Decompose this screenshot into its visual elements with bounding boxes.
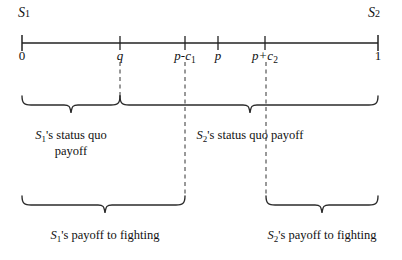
lower-brace-group	[22, 196, 378, 213]
tick-label-p-plus-c2-text: p+c	[252, 48, 273, 63]
tick-label-p-plus-c2: p+c2	[252, 49, 278, 65]
tick-label-q: q	[117, 49, 124, 64]
brace-s2-status-quo	[120, 96, 378, 113]
brace-label-s2-status-quo: S2's status quo payoff	[197, 128, 304, 144]
tick-label-one: 1	[375, 49, 382, 64]
tick-label-p: p	[215, 49, 222, 64]
brace-s1-fighting	[22, 196, 185, 213]
player-2-symbol: S	[368, 5, 375, 20]
player-1-subscript: 1	[25, 8, 30, 19]
brace-s2-fighting	[266, 196, 378, 213]
tick-label-p-minus-c1-sub: 1	[191, 55, 196, 65]
tick-label-p-minus-c1: p-c1	[174, 49, 195, 65]
axis-group	[22, 35, 378, 51]
tick-label-zero: 0	[19, 49, 26, 64]
upper-brace-group	[22, 96, 378, 113]
brace-label-s2-fighting-text: 's payoff to fighting	[278, 228, 376, 242]
tick-label-p-minus-c1-text: p-c	[174, 48, 191, 63]
brace-s1-status-quo	[22, 96, 120, 113]
brace-label-s2-status-quo-text: 's status quo payoff	[207, 128, 303, 142]
brace-label-s1-fighting-text: 's payoff to fighting	[61, 228, 159, 242]
brace-label-s1-status-quo: S1's status quo payoff	[35, 128, 106, 158]
bargaining-range-figure: S1 S2 0 q p-c1 p p+c2 1 S1's status quo …	[0, 0, 402, 260]
player-2-header: S2	[368, 5, 380, 21]
tick-label-p-text: p	[215, 48, 222, 63]
player-2-subscript: 2	[375, 8, 380, 19]
player-1-header: S1	[18, 5, 30, 21]
tick-label-zero-text: 0	[19, 48, 26, 63]
brace-label-s2-fighting: S2's payoff to fighting	[268, 228, 377, 244]
tick-label-one-text: 1	[375, 48, 382, 63]
tick-label-q-text: q	[117, 48, 124, 63]
tick-label-p-plus-c2-sub: 2	[273, 55, 278, 65]
brace-label-s1-fighting: S1's payoff to fighting	[51, 228, 160, 244]
brace-label-s1-status-quo-text2: payoff	[55, 144, 87, 158]
player-1-symbol: S	[18, 5, 25, 20]
brace-label-s1-status-quo-text: 's status quo	[46, 128, 107, 142]
